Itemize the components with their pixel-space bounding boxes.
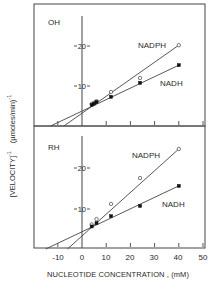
nadh-data-point bbox=[90, 225, 93, 228]
series-label-nadh-rh: NADH bbox=[162, 200, 185, 209]
y-tick-label: 10 bbox=[78, 82, 86, 91]
x-axis-title: NUCLEOTIDE CONCENTRATION , (mM) bbox=[47, 270, 190, 279]
series-label-nadh-oh: NADH bbox=[160, 79, 183, 88]
y-tick-label: 20 bbox=[78, 42, 86, 51]
x-tick-label: -10 bbox=[52, 253, 64, 262]
x-tick-label: 0 bbox=[80, 253, 85, 262]
panel-rh-label: RH bbox=[48, 143, 60, 152]
y-axis-title-velocity: [VELOCITY] bbox=[8, 156, 17, 197]
nadh-data-point bbox=[139, 81, 142, 84]
nadph-data-point bbox=[95, 217, 98, 220]
x-tick-label: 40 bbox=[174, 253, 183, 262]
nadh-data-point bbox=[95, 101, 98, 104]
nadph-data-point bbox=[109, 90, 112, 93]
nadh-data-point bbox=[110, 95, 113, 98]
nadh-data-point bbox=[177, 64, 180, 67]
panel-rh-plot bbox=[46, 147, 181, 249]
nadph-data-point bbox=[109, 202, 112, 205]
series-label-nadph-rh: NADPH bbox=[132, 151, 160, 160]
x-ticks bbox=[58, 121, 203, 247]
x-tick-label: 10 bbox=[102, 253, 111, 262]
y-axis-title: [VELOCITY]-1(µmoles/min)-1 bbox=[6, 95, 17, 198]
lineweaver-burk-figure: OH RH 20 10 20 10 -10 0 10 20 30 40 50 N… bbox=[0, 0, 216, 286]
svg-text:[VELOCITY]-1(µmoles/min)-1: [VELOCITY]-1(µmoles/min)-1 bbox=[6, 95, 17, 198]
y-axis-title-units: (µmoles/min) bbox=[8, 99, 17, 143]
nadph-data-point bbox=[177, 44, 180, 47]
y-axis-title-exponent: -1 bbox=[6, 151, 12, 156]
x-tick-label: 20 bbox=[126, 253, 135, 262]
series-label-nadph-oh: NADPH bbox=[138, 41, 166, 50]
nadh-data-point bbox=[95, 222, 98, 225]
nadph-data-point bbox=[177, 147, 180, 150]
x-tick-labels: -10 0 10 20 30 40 50 bbox=[52, 253, 208, 262]
panel-oh-label: OH bbox=[48, 18, 60, 27]
x-tick-label: 50 bbox=[199, 253, 208, 262]
nadh-data-point bbox=[139, 204, 142, 207]
y-tick-label: 20 bbox=[78, 164, 86, 173]
nadh-data-point bbox=[177, 184, 180, 187]
y-axis-title-units-exponent: -1 bbox=[6, 95, 12, 100]
nadh-fit-line bbox=[51, 65, 179, 126]
nadph-data-point bbox=[138, 176, 141, 179]
x-tick-label: 30 bbox=[150, 253, 159, 262]
nadh-data-point bbox=[110, 215, 113, 218]
nadph-data-point bbox=[138, 76, 141, 79]
y-tick-label: 10 bbox=[78, 205, 86, 214]
